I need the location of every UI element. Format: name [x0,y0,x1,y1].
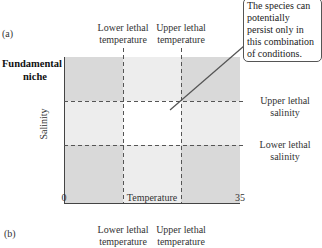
callout-line: The species can [247,0,318,12]
x-max-label: 35 [230,192,250,204]
x-min-label: 0 [58,192,70,204]
x-axis-label: Temperature [122,192,182,204]
label-line: Lower lethal [250,139,320,151]
callout-box: The species can potentially persist only… [243,0,322,62]
label-line: Upper lethal [146,224,216,236]
callout-line: of conditions. [247,48,318,60]
panel-b-upper-lethal-temperature-label: Upper lethal temperature [146,224,216,248]
lower-lethal-salinity-label: Lower lethal salinity [250,139,320,163]
callout-line: this combination [247,36,318,48]
panel-b-label: (b) [4,228,16,239]
upper-lethal-salinity-label: Upper lethal salinity [250,95,320,119]
callout-line: potentially [247,12,318,24]
callout-line: persist only in [247,24,318,36]
label-line: temperature [146,236,216,248]
label-line: salinity [250,151,320,163]
label-line: Upper lethal [250,95,320,107]
label-line: salinity [250,107,320,119]
